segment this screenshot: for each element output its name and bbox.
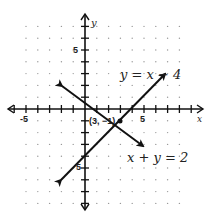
- x-axis: [8, 105, 203, 113]
- y-tick-label-5: 5: [73, 45, 78, 55]
- x-tick-label-neg5: -5: [20, 114, 28, 124]
- y-axis-label: y: [90, 17, 97, 28]
- y-tick-label-neg5: 5: [76, 162, 81, 172]
- intersection-point: [118, 119, 123, 124]
- graph: y = x − 4 x + y = 2 (3, −1) y x -5 5 5 5: [0, 0, 214, 221]
- x-axis-label: x: [197, 114, 202, 124]
- dotted-grid: [25, 26, 180, 204]
- equation-label-1: y = x − 4: [119, 67, 181, 82]
- equation-label-2: x + y = 2: [127, 150, 188, 165]
- x-tick-label-5: 5: [140, 114, 145, 124]
- intersection-label: (3, −1): [89, 116, 115, 126]
- y-axis: [81, 14, 89, 210]
